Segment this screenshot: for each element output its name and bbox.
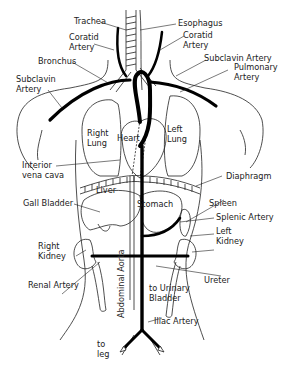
label-bronchus: Bronchus (38, 56, 76, 66)
iliac-artery-left (142, 330, 160, 348)
label-renal-artery: Renal Artery (28, 280, 79, 290)
label-abdominal-aorta: Abdominal Aorta (116, 250, 126, 318)
label-right-lung: Right Lung (87, 128, 109, 148)
label-diaphragm: Diaphragm (226, 171, 272, 181)
coratid-artery-right (117, 28, 126, 76)
label-right-kidney: Right Kidney (38, 241, 66, 261)
label-left-lung: Left Lung (167, 124, 187, 144)
spleen-outline (180, 209, 190, 236)
right-kidney-outline (74, 239, 96, 268)
label-gall-bladder: Gall Bladder (23, 198, 73, 208)
label-to-leg: to leg (97, 339, 110, 359)
label-to-urinary-bladder: to Urinary Bladder (149, 283, 190, 303)
label-esophagus: Esophagus (178, 18, 223, 28)
label-interior-vena-cava: Interior vena cava (22, 160, 64, 180)
left-kidney-outline (174, 239, 196, 268)
label-spleen: Spleen (209, 198, 237, 208)
label-coratid-artery-left: Coratid Artery (183, 30, 213, 50)
stomach-outline (140, 191, 182, 232)
label-heart: Heart (117, 133, 140, 143)
label-subclavin-artery-right: Subclavin Artery (16, 74, 56, 94)
label-trachea: Trachea (74, 16, 106, 26)
vena-cava (130, 176, 134, 310)
label-stomach: Stomach (137, 199, 173, 209)
label-splenic-artery: Splenic Artery (216, 212, 274, 222)
label-left-kidney: Left Kidney (216, 226, 244, 246)
label-pulmonary-artery: Pulmonary Artery (234, 62, 278, 82)
iliac-artery-right (124, 330, 142, 348)
splenic-artery (142, 218, 180, 236)
label-ureter: Ureter (204, 275, 230, 285)
liver-outline (81, 190, 141, 230)
subclavin-artery-left (150, 82, 216, 106)
anatomy-diagram: Trachea Esophagus Coratid Artery Coratid… (0, 0, 282, 381)
label-liver: Liver (96, 185, 116, 195)
subclavin-artery-right (50, 80, 130, 120)
ureter-right (92, 262, 106, 311)
label-coratid-artery-right: Coratid Artery (69, 32, 99, 52)
esophagus (140, 10, 142, 90)
coratid-artery-left (148, 32, 162, 76)
label-iliac-artery: Iliac Artery (154, 316, 199, 326)
